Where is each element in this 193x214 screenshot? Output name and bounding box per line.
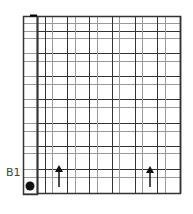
grid-diagram xyxy=(0,0,193,214)
side-column-border xyxy=(24,17,38,195)
arrow-up-icon-1 xyxy=(55,165,63,172)
start-dot-icon xyxy=(26,182,35,191)
